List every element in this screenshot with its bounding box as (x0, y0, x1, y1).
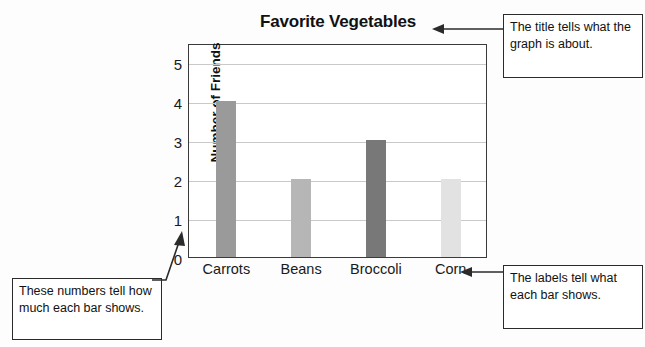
y-axis-tick-label: 1 (174, 212, 182, 229)
y-axis-tick-label: 5 (174, 56, 182, 73)
bar (291, 179, 311, 257)
x-axis-category-label: Corn (435, 261, 466, 277)
chart-title: Favorite Vegetables (188, 12, 488, 32)
bar (216, 101, 236, 257)
bar (441, 179, 461, 257)
x-axis-category-label: Beans (281, 261, 322, 277)
plot-area: Number of Friends 543210 CarrotsBeansBro… (188, 44, 487, 258)
y-axis-tick-label: 2 (174, 173, 182, 190)
worksheet-figure: Favorite Vegetables Number of Friends 54… (0, 0, 645, 347)
gridline (189, 64, 486, 65)
y-axis-tick-label: 3 (174, 134, 182, 151)
callout-labels-note: The labels tell what each bar shows. (503, 265, 643, 329)
x-axis-category-label: Carrots (203, 261, 251, 277)
callout-numbers-note: These numbers tell how much each bar sho… (12, 278, 162, 340)
bar (366, 140, 386, 257)
x-axis-category-label: Broccoli (350, 261, 402, 277)
y-axis-tick-label: 0 (174, 251, 182, 268)
y-axis-tick-label: 4 (174, 95, 182, 112)
callout-title-note: The title tells what the graph is about. (503, 14, 643, 78)
